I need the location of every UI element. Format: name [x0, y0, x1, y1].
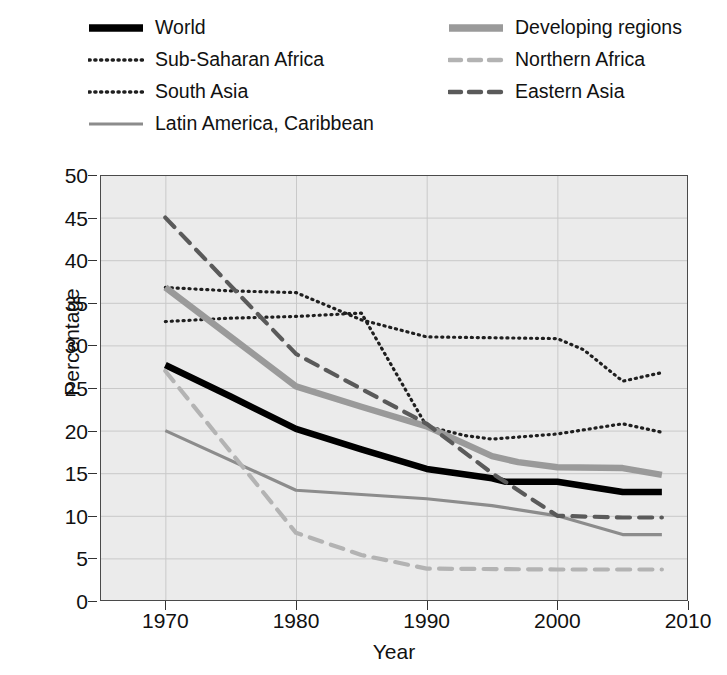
plot-area: [100, 175, 688, 601]
legend-item[interactable]: Developing regions: [448, 18, 682, 37]
y-tick-mark: [88, 431, 97, 432]
y-tick-label: 50: [65, 165, 88, 186]
y-axis-title: Percentage: [60, 262, 84, 422]
legend-item[interactable]: South Asia: [88, 82, 248, 101]
legend-swatch-icon: [448, 52, 504, 68]
legend-item[interactable]: Eastern Asia: [448, 82, 624, 101]
y-tick-label: 5: [76, 548, 88, 569]
x-tick-mark: [165, 601, 166, 610]
y-tick-label: 45: [65, 207, 88, 228]
legend-swatch-icon: [88, 20, 144, 36]
legend-label: South Asia: [155, 82, 248, 101]
y-tick-mark: [88, 303, 97, 304]
x-tick-label: 1980: [273, 610, 320, 631]
legend-label: World: [155, 18, 206, 37]
x-tick-label: 1970: [142, 610, 189, 631]
legend-label: Developing regions: [515, 18, 682, 37]
legend-swatch-icon: [448, 84, 504, 100]
data-lines: [100, 175, 688, 601]
legend-swatch-icon: [88, 52, 144, 68]
series-line: [165, 287, 662, 474]
x-tick-mark: [557, 601, 558, 610]
y-tick-mark: [88, 601, 97, 602]
chart-figure: WorldSub-Saharan AfricaSouth AsiaLatin A…: [0, 0, 727, 675]
series-line: [165, 431, 662, 535]
y-tick-mark: [88, 516, 97, 517]
y-tick-mark: [88, 260, 97, 261]
x-tick-mark: [688, 601, 689, 610]
legend-label: Latin America, Caribbean: [155, 114, 374, 133]
y-tick-mark: [88, 558, 97, 559]
y-tick-label: 0: [76, 591, 88, 612]
legend-swatch-icon: [88, 116, 144, 132]
y-tick-mark: [88, 175, 97, 176]
x-tick-mark: [296, 601, 297, 610]
series-line: [165, 365, 662, 492]
x-tick-mark: [427, 601, 428, 610]
x-axis-tick-labels: 19701980199020002010: [100, 606, 688, 636]
x-tick-label: 1990: [403, 610, 450, 631]
y-tick-label: 10: [65, 505, 88, 526]
y-tick-label: 20: [65, 420, 88, 441]
y-tick-mark: [88, 388, 97, 389]
x-axis-title: Year: [100, 640, 688, 664]
legend-swatch-icon: [88, 84, 144, 100]
legend-label: Eastern Asia: [515, 82, 624, 101]
legend-label: Sub-Saharan Africa: [155, 50, 324, 69]
x-tick-label: 2000: [534, 610, 581, 631]
legend-swatch-icon: [448, 20, 504, 36]
y-tick-mark: [88, 345, 97, 346]
y-tick-mark: [88, 218, 97, 219]
legend-label: Northern Africa: [515, 50, 645, 69]
x-tick-label: 2010: [665, 610, 712, 631]
chart-legend: WorldSub-Saharan AfricaSouth AsiaLatin A…: [88, 18, 708, 146]
y-tick-label: 15: [65, 463, 88, 484]
legend-item[interactable]: World: [88, 18, 206, 37]
legend-item[interactable]: Sub-Saharan Africa: [88, 50, 324, 69]
legend-item[interactable]: Northern Africa: [448, 50, 645, 69]
series-line: [165, 287, 662, 381]
y-tick-mark: [88, 473, 97, 474]
legend-item[interactable]: Latin America, Caribbean: [88, 114, 374, 133]
series-line: [165, 218, 662, 518]
